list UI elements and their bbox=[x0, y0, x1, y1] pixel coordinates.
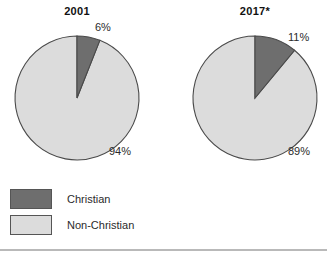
legend-swatch-christian bbox=[10, 189, 52, 209]
legend-item-christian: Christian bbox=[10, 186, 134, 212]
legend-label-non-christian: Non-Christian bbox=[67, 219, 134, 231]
pie-label-non-christian-2001: 94% bbox=[109, 145, 131, 157]
pie-label-christian-2001: 6% bbox=[95, 21, 111, 33]
pie-chart-figure: 2001 6% 94% 2017* 11% 89% Christian Non-… bbox=[0, 0, 327, 259]
chart-title-2017: 2017* bbox=[215, 5, 295, 17]
pie-label-non-christian-2017: 89% bbox=[288, 145, 310, 157]
chart-title-2001: 2001 bbox=[37, 5, 117, 17]
chart-legend: Christian Non-Christian bbox=[10, 186, 134, 238]
legend-item-non-christian: Non-Christian bbox=[10, 212, 134, 238]
legend-label-christian: Christian bbox=[67, 193, 110, 205]
pie-label-christian-2017: 11% bbox=[288, 31, 309, 43]
footer-divider bbox=[0, 249, 327, 251]
legend-swatch-non-christian bbox=[10, 215, 52, 235]
